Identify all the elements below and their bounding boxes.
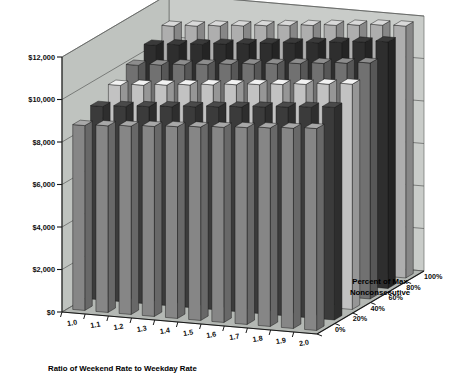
bar-0pct-1.6 (212, 122, 232, 323)
y-tick-label: $8,000 (32, 138, 55, 147)
bar-0pct-1.9 (281, 123, 301, 329)
x-tick-label: 1.0 (66, 318, 77, 328)
z-tick-label: 100% (424, 272, 443, 281)
x-tick-label: 2.0 (298, 338, 309, 348)
bar-0pct-2.0 (305, 123, 325, 330)
y-tick-label: $10,000 (28, 95, 55, 104)
bar-0pct-1.8 (258, 123, 278, 327)
z-tick-label: 40% (371, 304, 386, 313)
bar-0pct-1.1 (96, 120, 116, 312)
y-tick-label: $12,000 (28, 53, 55, 62)
x-tick-label: 1.2 (113, 322, 124, 332)
x-tick-label: 1.7 (229, 332, 240, 342)
x-tick-label: 1.1 (90, 320, 101, 330)
x-tick-label: 1.6 (206, 330, 217, 340)
bar-0pct-1.0 (73, 120, 93, 310)
y-tick-label: $4,000 (32, 223, 55, 232)
z-axis-title-line1: Percent of Max (352, 277, 408, 286)
bar-0pct-1.5 (189, 122, 209, 321)
bar-20pct-2.0 (322, 102, 342, 320)
z-tick-label: 20% (353, 314, 368, 323)
bar-60pct-2.0 (358, 58, 378, 299)
z-tick-label: 0% (335, 325, 346, 334)
x-tick-label: 1.9 (275, 336, 286, 346)
bar-0pct-1.7 (235, 122, 255, 324)
x-axis-title: Ratio of Weekend Rate to Weekday Rate (48, 364, 197, 373)
z-axis-title-line2: Nonconsecutive (350, 288, 411, 297)
three-d-bar-chart: $0$2,000$4,000$6,000$8,000$10,000$12,000… (0, 0, 462, 385)
bar-0pct-1.3 (142, 121, 162, 316)
y-tick-label: $2,000 (32, 265, 55, 274)
bar-80pct-2.0 (376, 37, 396, 289)
x-tick-label: 1.3 (136, 324, 147, 334)
x-tick-label: 1.5 (182, 328, 193, 338)
chart-canvas: $0$2,000$4,000$6,000$8,000$10,000$12,000… (0, 0, 462, 385)
bar-100pct-2.0 (394, 21, 414, 278)
bar-0pct-1.4 (165, 121, 185, 318)
x-tick-label: 1.4 (159, 326, 170, 336)
bar-40pct-2.0 (340, 79, 360, 310)
y-axis-tick-labels: $0$2,000$4,000$6,000$8,000$10,000$12,000 (28, 53, 55, 317)
y-tick-label: $0 (47, 308, 55, 317)
bar-0pct-1.2 (119, 121, 139, 315)
x-tick-label: 1.8 (252, 334, 263, 344)
y-tick-label: $6,000 (32, 180, 55, 189)
